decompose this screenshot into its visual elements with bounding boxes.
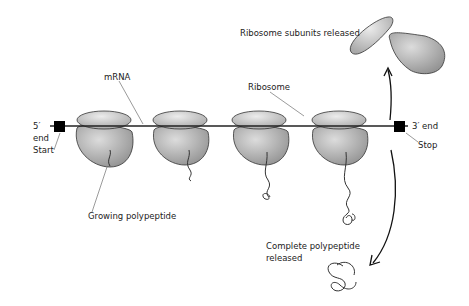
polypeptide-leader bbox=[92, 167, 107, 212]
ribosome-2 bbox=[153, 111, 209, 181]
five-prime-label: 5′ bbox=[33, 121, 40, 131]
complete-polypeptide-released-label: released bbox=[266, 253, 302, 263]
ribosome-3 bbox=[232, 111, 289, 199]
five-prime-end-label: end bbox=[33, 133, 49, 143]
complete-polypeptide-label: Complete polypeptide bbox=[266, 241, 360, 251]
start-leader bbox=[54, 133, 60, 150]
arrow-down bbox=[373, 150, 395, 263]
mrna-label: mRNA bbox=[104, 72, 130, 82]
ribosome-1 bbox=[76, 111, 133, 167]
stop-codon-marker bbox=[394, 121, 405, 132]
ribosome-label: Ribosome bbox=[248, 82, 290, 92]
start-label: Start bbox=[33, 145, 54, 155]
three-prime-end-label: 3′ end bbox=[412, 121, 438, 131]
start-codon-marker bbox=[54, 121, 65, 132]
complete-polypeptide bbox=[328, 262, 356, 291]
released-subunits bbox=[350, 17, 445, 74]
growing-polypeptide-label: Growing polypeptide bbox=[88, 211, 176, 221]
ribosome-4 bbox=[312, 111, 368, 225]
translation-diagram bbox=[0, 0, 469, 306]
stop-label: Stop bbox=[418, 140, 437, 150]
stop-leader bbox=[406, 133, 418, 142]
subunits-released-label: Ribosome subunits released bbox=[240, 28, 360, 38]
arrow-up bbox=[388, 70, 391, 120]
